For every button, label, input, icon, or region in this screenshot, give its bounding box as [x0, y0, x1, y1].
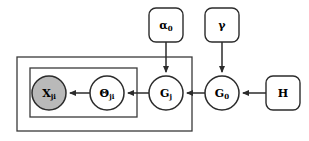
diagram-canvas: Xji Θji Gj G0 α0 γ H [0, 0, 309, 141]
node-g-0[interactable]: G0 [205, 76, 239, 110]
plate-diagram: Xji Θji Gj G0 α0 γ H [0, 0, 309, 141]
param-h-label: H [278, 87, 288, 100]
node-g-j[interactable]: Gj [149, 76, 183, 110]
param-gamma[interactable]: γ [205, 8, 239, 42]
param-alpha0[interactable]: α0 [149, 8, 183, 42]
node-theta-ji[interactable]: Θji [90, 76, 124, 110]
param-h[interactable]: H [266, 76, 300, 110]
param-gamma-label: γ [218, 19, 226, 32]
node-x-ji[interactable]: Xji [32, 76, 66, 110]
